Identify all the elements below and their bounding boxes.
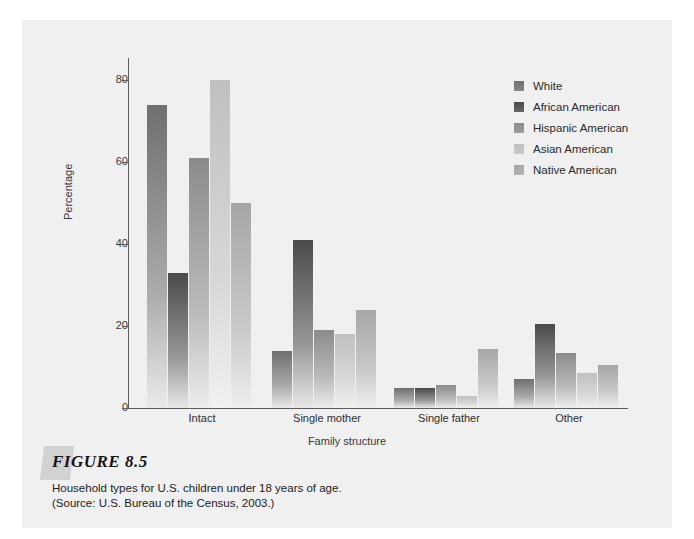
legend-item: Native American	[514, 161, 674, 178]
legend-swatch-icon	[514, 102, 524, 112]
y-tick-mark	[122, 80, 128, 81]
legend-label: African American	[533, 101, 620, 113]
bar	[415, 388, 435, 408]
bar	[189, 158, 209, 408]
legend-label: Native American	[533, 164, 617, 176]
bar	[514, 379, 534, 408]
y-tick-mark	[122, 162, 128, 163]
bar	[436, 385, 456, 408]
legend-swatch-icon	[514, 123, 524, 133]
legend-label: Hispanic American	[533, 122, 628, 134]
y-tick: 80	[22, 80, 128, 81]
chart-region: 020406080 Percentage IntactSingle mother…	[22, 20, 672, 420]
bar	[535, 324, 555, 408]
bar	[598, 365, 618, 408]
x-tick-label: Other	[514, 412, 624, 424]
bar	[231, 203, 251, 408]
legend-swatch-icon	[514, 144, 524, 154]
y-axis-title: Percentage	[62, 164, 74, 220]
y-tick-mark	[122, 408, 128, 409]
legend-item: Asian American	[514, 140, 674, 157]
bar	[168, 273, 188, 408]
x-tick-label: Intact	[147, 412, 257, 424]
bar	[335, 334, 355, 408]
x-tick-label: Single father	[394, 412, 504, 424]
legend-label: White	[533, 80, 562, 92]
bar	[293, 240, 313, 408]
y-tick-label: 80	[102, 73, 128, 85]
legend-label: Asian American	[533, 143, 613, 155]
bar	[314, 330, 334, 408]
y-tick-mark	[122, 244, 128, 245]
y-tick-label: 0	[102, 401, 128, 413]
y-tick-mark	[122, 326, 128, 327]
legend-item: Hispanic American	[514, 119, 674, 136]
legend-swatch-icon	[514, 81, 524, 91]
bar	[556, 353, 576, 408]
bar	[457, 396, 477, 408]
legend-item: White	[514, 77, 674, 94]
figure-caption-line-1: Household types for U.S. children under …	[34, 481, 454, 496]
bar	[356, 310, 376, 408]
figure-panel: 020406080 Percentage IntactSingle mother…	[22, 20, 672, 528]
bar-group: Single father	[394, 60, 504, 408]
y-tick-label: 60	[102, 155, 128, 167]
bar	[210, 80, 230, 408]
legend-item: African American	[514, 98, 674, 115]
figure-caption-block: FIGURE 8.5 Household types for U.S. chil…	[34, 444, 454, 511]
y-tick: 0	[22, 408, 128, 409]
bar	[272, 351, 292, 408]
bar	[147, 105, 167, 408]
x-axis-line	[128, 408, 628, 409]
y-tick: 40	[22, 244, 128, 245]
bar	[478, 349, 498, 408]
x-tick-label: Single mother	[272, 412, 382, 424]
figure-caption-line-2: (Source: U.S. Bureau of the Census, 2003…	[34, 496, 454, 511]
chart-legend: WhiteAfrican AmericanHispanic AmericanAs…	[514, 77, 674, 182]
figure-title: FIGURE 8.5	[34, 444, 454, 472]
legend-swatch-icon	[514, 165, 524, 175]
y-tick-label: 20	[102, 319, 128, 331]
y-tick: 20	[22, 326, 128, 327]
bar-group: Intact	[147, 60, 257, 408]
bar-group: Single mother	[272, 60, 382, 408]
y-tick: 60	[22, 162, 128, 163]
bar	[394, 388, 414, 408]
bar	[577, 373, 597, 408]
y-tick-label: 40	[102, 237, 128, 249]
